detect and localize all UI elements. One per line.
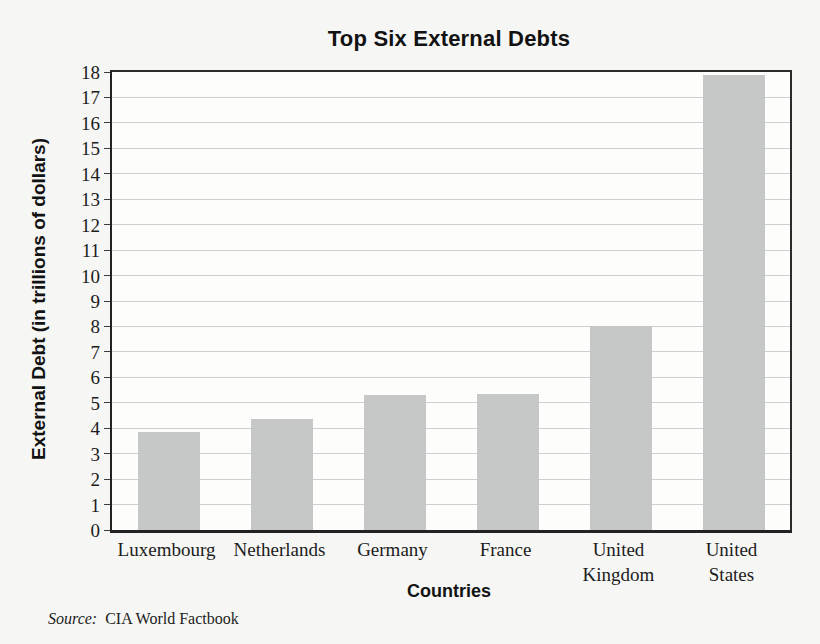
y-tick-mark: [104, 148, 110, 149]
y-tick-label: 8: [60, 317, 100, 336]
y-tick-label: 10: [60, 267, 100, 286]
y-tick-mark: [104, 250, 110, 251]
gridline: [112, 453, 790, 454]
y-tick-mark: [104, 428, 110, 429]
y-tick-mark: [104, 504, 110, 505]
bar: [364, 395, 426, 530]
x-category-label: Germany: [336, 537, 449, 562]
y-tick-mark: [104, 97, 110, 98]
source-line: Source: CIA World Factbook: [48, 610, 239, 628]
y-axis-title-text: External Debt (in trillions of dollars): [28, 138, 50, 460]
y-tick-label: 1: [60, 496, 100, 515]
source-value: CIA World Factbook: [105, 610, 239, 627]
y-tick-mark: [104, 453, 110, 454]
gridline: [112, 351, 790, 352]
y-tick-label: 12: [60, 216, 100, 235]
bar: [251, 419, 313, 530]
y-tick-mark: [104, 72, 110, 73]
y-tick-label: 18: [60, 63, 100, 82]
x-axis-title: Countries: [110, 581, 788, 602]
gridline: [112, 377, 790, 378]
y-tick-mark: [104, 224, 110, 225]
y-tick-mark: [104, 275, 110, 276]
bar: [477, 394, 539, 530]
gridline: [112, 301, 790, 302]
y-tick-label: 14: [60, 165, 100, 184]
gridline: [112, 97, 790, 98]
y-tick-mark: [104, 301, 110, 302]
x-category-label: Luxembourg: [110, 537, 223, 562]
chart-figure: Top Six External Debts External Debt (in…: [0, 0, 820, 644]
gridline: [112, 275, 790, 276]
chart-title: Top Six External Debts: [110, 26, 788, 52]
x-category-label: United Kingdom: [562, 537, 675, 587]
y-tick-label: 13: [60, 190, 100, 209]
y-tick-label: 2: [60, 470, 100, 489]
source-label: Source:: [48, 610, 97, 627]
y-tick-mark: [104, 479, 110, 480]
bar: [590, 326, 652, 530]
y-tick-label: 16: [60, 114, 100, 133]
y-tick-label: 7: [60, 343, 100, 362]
gridline: [112, 148, 790, 149]
gridline: [112, 122, 790, 123]
gridline: [112, 173, 790, 174]
y-tick-mark: [104, 173, 110, 174]
gridline: [112, 250, 790, 251]
y-tick-label: 5: [60, 394, 100, 413]
y-tick-mark: [104, 377, 110, 378]
gridline: [112, 224, 790, 225]
x-category-label: United States: [675, 537, 788, 587]
y-tick-label: 4: [60, 419, 100, 438]
plot-area: 0123456789101112131415161718: [110, 70, 792, 533]
y-tick-label: 3: [60, 445, 100, 464]
y-tick-label: 15: [60, 139, 100, 158]
x-category-label: France: [449, 537, 562, 562]
y-tick-label: 0: [60, 521, 100, 540]
y-tick-mark: [104, 199, 110, 200]
y-tick-mark: [104, 326, 110, 327]
x-category-label: Netherlands: [223, 537, 336, 562]
gridline: [112, 428, 790, 429]
gridline: [112, 199, 790, 200]
bar: [703, 75, 765, 530]
y-tick-mark: [104, 402, 110, 403]
y-tick-mark: [104, 351, 110, 352]
y-tick-label: 11: [60, 241, 100, 260]
y-tick-mark: [104, 530, 110, 531]
y-tick-label: 17: [60, 88, 100, 107]
y-tick-label: 6: [60, 368, 100, 387]
gridline: [112, 402, 790, 403]
gridline: [112, 326, 790, 327]
y-tick-label: 9: [60, 292, 100, 311]
y-tick-mark: [104, 122, 110, 123]
gridline: [112, 479, 790, 480]
gridline: [112, 504, 790, 505]
bar: [138, 432, 200, 530]
